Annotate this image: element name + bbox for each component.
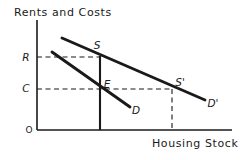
demand-curve-d: [52, 52, 130, 107]
y-axis-tick-label-C: C: [22, 82, 30, 94]
economics-diagram-figure: Rents and Costs Housing Stock R C O S E …: [0, 0, 246, 160]
origin-label: O: [25, 125, 32, 135]
demand-curve-d-prime: [62, 38, 205, 100]
point-label-S: S: [94, 39, 101, 51]
curve-label-D-prime: D': [208, 97, 219, 109]
housing-market-diagram: Rents and Costs Housing Stock R C O S E …: [0, 0, 246, 160]
point-label-S-prime: S': [175, 76, 185, 88]
x-axis-label: Housing Stock: [152, 137, 238, 150]
y-axis-tick-label-R: R: [22, 51, 29, 63]
chart-title: Rents and Costs: [14, 6, 112, 19]
point-label-E: E: [104, 78, 111, 90]
curve-label-D: D: [132, 104, 140, 116]
